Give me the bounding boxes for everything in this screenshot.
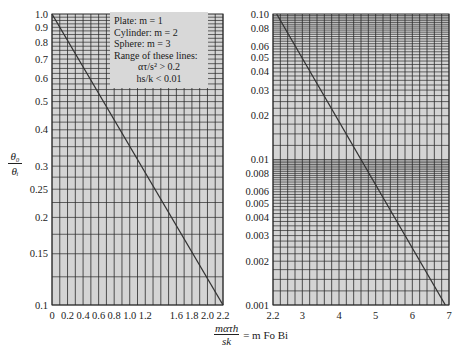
svg-text:0.1: 0.1 (35, 300, 48, 311)
svg-text:0.2: 0.2 (61, 310, 74, 321)
y-label-numerator: θ₀ (8, 150, 22, 162)
x-label-rest: = m Fo Bi (243, 329, 288, 341)
svg-text:7: 7 (446, 310, 451, 321)
svg-text:1.8: 1.8 (185, 310, 198, 321)
svg-text:0.03: 0.03 (251, 85, 269, 96)
svg-text:4: 4 (336, 310, 342, 321)
svg-text:0.006: 0.006 (245, 186, 269, 197)
plot-panel-right: 0.100.080.060.050.040.030.020.010.0080.0… (245, 9, 451, 322)
svg-text:0.008: 0.008 (245, 168, 269, 179)
svg-text:0.001: 0.001 (245, 300, 269, 311)
svg-text:0.004: 0.004 (245, 212, 269, 223)
legend-condition-1: ατ/s² > 0.2 (114, 61, 204, 73)
legend-sphere: Sphere: m = 3 (114, 38, 204, 50)
svg-text:5: 5 (373, 310, 378, 321)
svg-text:0.6: 0.6 (92, 310, 105, 321)
svg-text:0.04: 0.04 (251, 66, 270, 77)
legend-cylinder: Cylinder: m = 2 (114, 27, 204, 39)
chart-canvas: 1.00.90.80.70.60.50.40.30.250.20.150.100… (0, 0, 463, 358)
svg-text:0.003: 0.003 (245, 230, 269, 241)
svg-text:0.002: 0.002 (245, 256, 269, 267)
svg-text:1.2: 1.2 (139, 310, 152, 321)
svg-text:0.9: 0.9 (35, 22, 48, 33)
svg-text:1.0: 1.0 (35, 9, 48, 20)
svg-text:0.01: 0.01 (251, 154, 269, 165)
y-label-denominator: θᵢ (8, 165, 22, 177)
svg-text:0.8: 0.8 (35, 37, 48, 48)
svg-text:1.6: 1.6 (170, 310, 183, 321)
svg-text:1.0: 1.0 (123, 310, 136, 321)
svg-text:0: 0 (49, 310, 54, 321)
svg-text:0.06: 0.06 (251, 41, 269, 52)
svg-text:0.3: 0.3 (35, 161, 48, 172)
svg-text:0.10: 0.10 (251, 9, 269, 20)
svg-text:6: 6 (410, 310, 415, 321)
svg-text:0.15: 0.15 (30, 248, 48, 259)
svg-text:0.05: 0.05 (251, 52, 269, 63)
legend-condition-2: hs/k < 0.01 (114, 73, 204, 85)
svg-text:2.0: 2.0 (201, 310, 214, 321)
svg-text:3: 3 (300, 310, 305, 321)
svg-text:2.2: 2.2 (266, 310, 279, 321)
svg-text:0.4: 0.4 (35, 124, 49, 135)
x-axis-label: mατh sk = m Fo Bi (214, 322, 288, 347)
svg-text:0.6: 0.6 (35, 73, 48, 84)
legend-range-title: Range of these lines: (114, 50, 204, 62)
legend-plate: Plate: m = 1 (114, 15, 204, 27)
svg-text:0.7: 0.7 (35, 54, 48, 65)
svg-text:0.005: 0.005 (245, 198, 269, 209)
y-axis-label: θ₀ θᵢ (8, 150, 22, 177)
legend-box: Plate: m = 1 Cylinder: m = 2 Sphere: m =… (110, 12, 208, 88)
svg-text:0.25: 0.25 (30, 184, 48, 195)
svg-text:0.4: 0.4 (77, 310, 91, 321)
x-label-denominator: sk (222, 335, 231, 347)
x-label-numerator: mατh (214, 322, 239, 335)
svg-text:2.2: 2.2 (216, 310, 229, 321)
svg-text:0.8: 0.8 (108, 310, 121, 321)
svg-text:0.02: 0.02 (251, 110, 269, 121)
svg-text:0.5: 0.5 (35, 96, 48, 107)
svg-text:0.2: 0.2 (35, 212, 48, 223)
svg-text:0.08: 0.08 (251, 23, 269, 34)
